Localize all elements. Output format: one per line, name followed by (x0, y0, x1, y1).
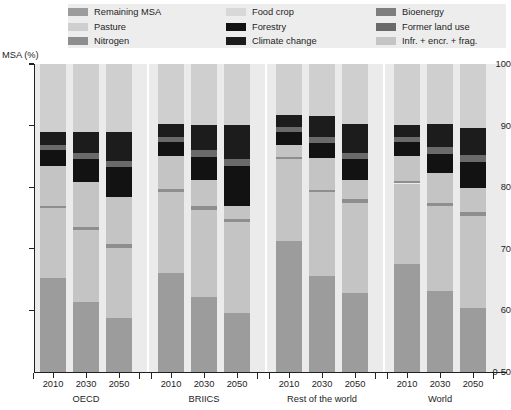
bar-segment (342, 180, 368, 199)
y-axis-tick-mark (29, 63, 34, 64)
chart-bar (106, 64, 132, 372)
legend-swatch (376, 23, 396, 31)
bar-segment (342, 199, 368, 203)
chart-bar (309, 64, 335, 372)
bar-segment (158, 156, 184, 189)
y-axis-tick-mark (29, 125, 34, 126)
bar-segment (460, 64, 486, 128)
legend-item: Infr. + encr. + frag. (376, 36, 506, 46)
bar-segment (342, 159, 368, 179)
bar-segment (394, 125, 420, 137)
bar-segment (40, 208, 66, 278)
legend-swatch (226, 23, 246, 31)
x-axis-year-label: 2010 (161, 379, 182, 389)
bar-segment (309, 116, 335, 137)
bar-segment (427, 291, 453, 372)
y-axis-tick-label: 100 (481, 59, 511, 69)
bar-segment (40, 166, 66, 205)
legend-label: Remaining MSA (94, 7, 161, 17)
bar-segment (309, 143, 335, 157)
bar-segment (276, 241, 302, 372)
bar-segment (73, 153, 99, 159)
x-axis-tick-mark (289, 373, 290, 378)
x-axis-tick-mark (119, 373, 120, 378)
x-axis-year-label: 2050 (345, 379, 366, 389)
chart-bar (158, 64, 184, 372)
bar-segment (394, 142, 420, 156)
bar-segment (191, 210, 217, 297)
bar-segment (40, 132, 66, 145)
x-axis-tick-mark (473, 373, 474, 378)
bar-segment (191, 125, 217, 150)
x-axis-year-label: 2030 (194, 379, 215, 389)
bar-segment (158, 142, 184, 156)
bar-segment (73, 182, 99, 227)
x-axis-year-label: 2010 (397, 379, 418, 389)
chart-bar (276, 64, 302, 372)
x-axis-year-label: 2030 (430, 379, 451, 389)
chart-bar (460, 64, 486, 372)
x-axis-group-label: BRIICS (189, 394, 220, 404)
x-axis-group-tick (375, 373, 376, 379)
legend-label: Bioenergy (402, 7, 444, 17)
bar-segment (427, 124, 453, 147)
x-axis-group-tick (33, 373, 34, 379)
x-axis-group-tick (151, 373, 152, 379)
bar-segment (460, 216, 486, 308)
bar-segment (309, 190, 335, 192)
legend-swatch (376, 8, 396, 16)
bar-segment (427, 203, 453, 206)
bar-segment (73, 227, 99, 229)
x-axis-tick-mark (204, 373, 205, 378)
bar-segment (106, 161, 132, 167)
bar-segment (309, 192, 335, 276)
bar-segment (342, 124, 368, 152)
x-axis-tick-mark (171, 373, 172, 378)
x-axis: 201020302050OECD201020302050BRIICS201020… (34, 373, 506, 410)
legend-item: Nitrogen (68, 36, 226, 46)
bar-segment (342, 153, 368, 160)
bar-segment (40, 278, 66, 372)
chart-bar (73, 64, 99, 372)
group-separator (265, 64, 267, 372)
group-separator (147, 64, 149, 372)
x-axis-group-tick (269, 373, 270, 379)
x-axis-tick-mark (86, 373, 87, 378)
bar-segment (73, 64, 99, 132)
bar-segment (427, 206, 453, 292)
x-axis-group-label: World (428, 394, 452, 404)
bar-segment (276, 115, 302, 127)
bar-segment (106, 197, 132, 244)
legend-item: Food crop (226, 7, 376, 17)
bar-segment (73, 302, 99, 372)
bar-segment (224, 219, 250, 223)
legend-label: Climate change (252, 36, 317, 46)
chart-bar (427, 64, 453, 372)
bar-segment (224, 166, 250, 206)
x-axis-year-label: 2010 (279, 379, 300, 389)
bar-segment (158, 64, 184, 124)
bar-segment (309, 64, 335, 116)
x-axis-year-label: 2050 (109, 379, 130, 389)
bar-segment (276, 145, 302, 157)
bar-segment (309, 276, 335, 372)
bar-segment (427, 147, 453, 154)
bar-segment (106, 318, 132, 372)
bar-segment (40, 150, 66, 166)
bar-segment (191, 297, 217, 372)
bar-segment (158, 192, 184, 273)
bar-segment (427, 154, 453, 173)
bar-segment (40, 145, 66, 150)
bar-segment (158, 273, 184, 372)
legend-label: Former land use (402, 22, 470, 32)
y-axis-tick-mark (29, 310, 34, 311)
x-axis-tick-mark (322, 373, 323, 378)
legend-swatch (376, 37, 396, 45)
x-axis-tick-mark (53, 373, 54, 378)
bar-segment (106, 132, 132, 161)
bar-segment (191, 150, 217, 157)
legend-item: Bioenergy (376, 7, 506, 17)
bar-segment (224, 159, 250, 166)
bar-segment (276, 157, 302, 159)
bar-segment (342, 64, 368, 124)
